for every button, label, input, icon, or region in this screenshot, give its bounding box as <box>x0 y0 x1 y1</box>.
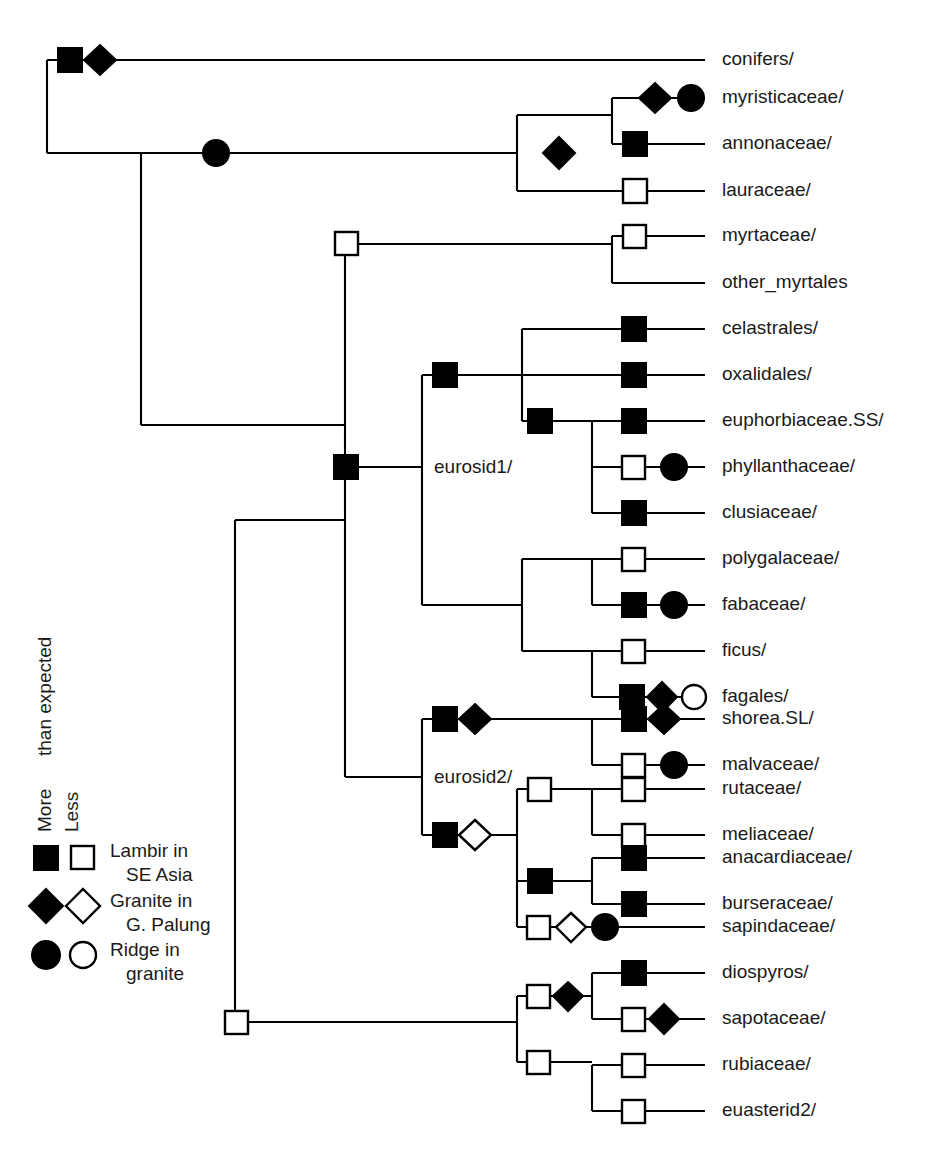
symbol-square-filled <box>58 48 82 72</box>
tip-label-malvaceae: malvaceae/ <box>722 753 820 774</box>
symbol-square-open <box>622 1100 645 1123</box>
symbol-square-filled <box>528 409 552 433</box>
tip-label-lauraceae: lauraceae/ <box>722 179 811 200</box>
tip-label-shorea: shorea.SL/ <box>722 707 815 728</box>
tip-label-celastrales: celastrales/ <box>722 317 819 338</box>
symbol-square-filled <box>433 823 457 847</box>
symbol-square-filled <box>622 409 646 433</box>
symbol-circle-filled <box>661 592 687 618</box>
legend-axis-caption: than expected <box>34 637 55 756</box>
symbol-square-filled <box>528 869 552 893</box>
symbol-square-open <box>335 232 358 255</box>
tip-label-other-myrtales: other_myrtales <box>722 271 848 293</box>
legend-label-granite-line1: Granite in <box>110 890 192 911</box>
symbol-square-open <box>622 824 645 847</box>
legend-square-filled-icon <box>34 846 58 870</box>
symbol-square-filled <box>622 892 646 916</box>
tip-label-conifers: conifers/ <box>722 48 795 69</box>
symbol-square-filled <box>622 846 646 870</box>
clade-label-eurosid2: eurosid2/ <box>434 766 513 787</box>
symbol-square-filled <box>622 707 646 731</box>
symbol-square-open <box>527 916 550 939</box>
tip-label-rubiaceae: rubiaceae/ <box>722 1053 811 1074</box>
symbol-square-open <box>622 754 645 777</box>
tip-label-fabaceae: fabaceae/ <box>722 593 806 614</box>
symbol-square-filled <box>433 363 457 387</box>
tip-label-ficus: ficus/ <box>722 639 767 660</box>
tip-label-annonaceae: annonaceae/ <box>722 132 833 153</box>
legend-label-lambir-line2: SE Asia <box>126 864 193 885</box>
symbol-square-open <box>622 778 645 801</box>
symbol-square-filled <box>623 132 647 156</box>
legend-square-open-icon <box>71 846 94 869</box>
legend-header-more: More <box>34 789 55 832</box>
tip-label-myristicaceae: myristicaceae/ <box>722 86 844 107</box>
symbol-square-open <box>622 456 645 479</box>
tip-label-polygalaceae: polygalaceae/ <box>722 547 840 568</box>
symbol-square-filled <box>622 961 646 985</box>
clade-label-eurosid1: eurosid1/ <box>434 456 513 477</box>
legend-circle-filled-icon <box>32 941 60 969</box>
symbol-square-open <box>527 985 550 1008</box>
tip-label-phyllanthaceae: phyllanthaceae/ <box>722 455 856 476</box>
tip-label-euasterid2: euasterid2/ <box>722 1099 817 1120</box>
symbol-square-open <box>528 778 551 801</box>
legend-header-less: Less <box>61 792 82 832</box>
symbol-square-open <box>225 1011 248 1034</box>
legend-label-ridge-line2: granite <box>126 963 184 984</box>
symbol-circle-filled <box>678 85 704 111</box>
tip-label-rutaceae: rutaceae/ <box>722 777 802 798</box>
symbol-square-open <box>623 225 646 248</box>
symbol-square-open <box>527 1051 550 1074</box>
symbol-square-filled <box>622 363 646 387</box>
symbol-square-filled <box>433 707 457 731</box>
tip-label-meliaceae: meliaceae/ <box>722 823 815 844</box>
tip-label-fagales: fagales/ <box>722 685 789 706</box>
symbol-square-open <box>622 1008 645 1031</box>
symbol-square-open <box>622 548 645 571</box>
symbol-circle-filled <box>661 752 687 778</box>
phylogenetic-tree-figure: conifers/ myristicaceae/ annonaceae/ lau… <box>0 0 940 1161</box>
tip-label-myrtaceae: myrtaceae/ <box>722 224 817 245</box>
symbol-square-filled <box>334 455 358 479</box>
symbol-square-filled <box>622 317 646 341</box>
legend-circle-open-icon <box>70 942 96 968</box>
tip-label-burseraceae: burseraceae/ <box>722 892 834 913</box>
tip-label-euphorbiaceae: euphorbiaceae.SS/ <box>722 409 884 430</box>
symbol-circle-filled <box>592 914 618 940</box>
tip-label-anacardiaceae: anacardiaceae/ <box>722 846 853 867</box>
tip-label-diospyros: diospyros/ <box>722 961 809 982</box>
symbol-circle-filled <box>661 454 687 480</box>
tip-label-oxalidales: oxalidales/ <box>722 363 812 384</box>
symbol-square-open <box>622 1054 645 1077</box>
tip-label-clusiaceae: clusiaceae/ <box>722 501 818 522</box>
symbol-square-open <box>622 640 645 663</box>
symbol-square-filled <box>622 501 646 525</box>
symbol-square-filled <box>620 685 644 709</box>
tip-label-sapotaceae: sapotaceae/ <box>722 1007 826 1028</box>
legend-label-granite-line2: G. Palung <box>126 914 211 935</box>
symbol-square-filled <box>622 593 646 617</box>
legend-label-ridge-line1: Ridge in <box>110 939 180 960</box>
legend-label-lambir-line1: Lambir in <box>110 840 188 861</box>
symbol-circle-open <box>682 685 706 709</box>
symbol-circle-filled <box>203 140 229 166</box>
symbol-square-open <box>623 179 647 203</box>
tip-label-sapindaceae: sapindaceae/ <box>722 915 836 936</box>
